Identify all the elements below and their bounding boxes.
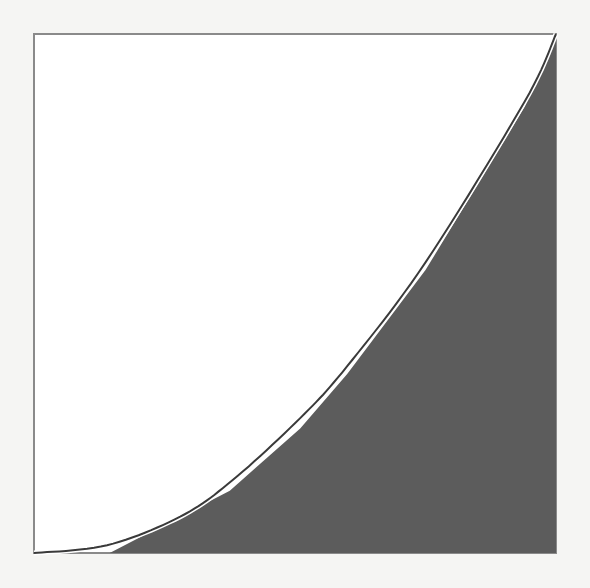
- scanned-page: [0, 0, 590, 588]
- convex-curve-figure: [0, 0, 590, 588]
